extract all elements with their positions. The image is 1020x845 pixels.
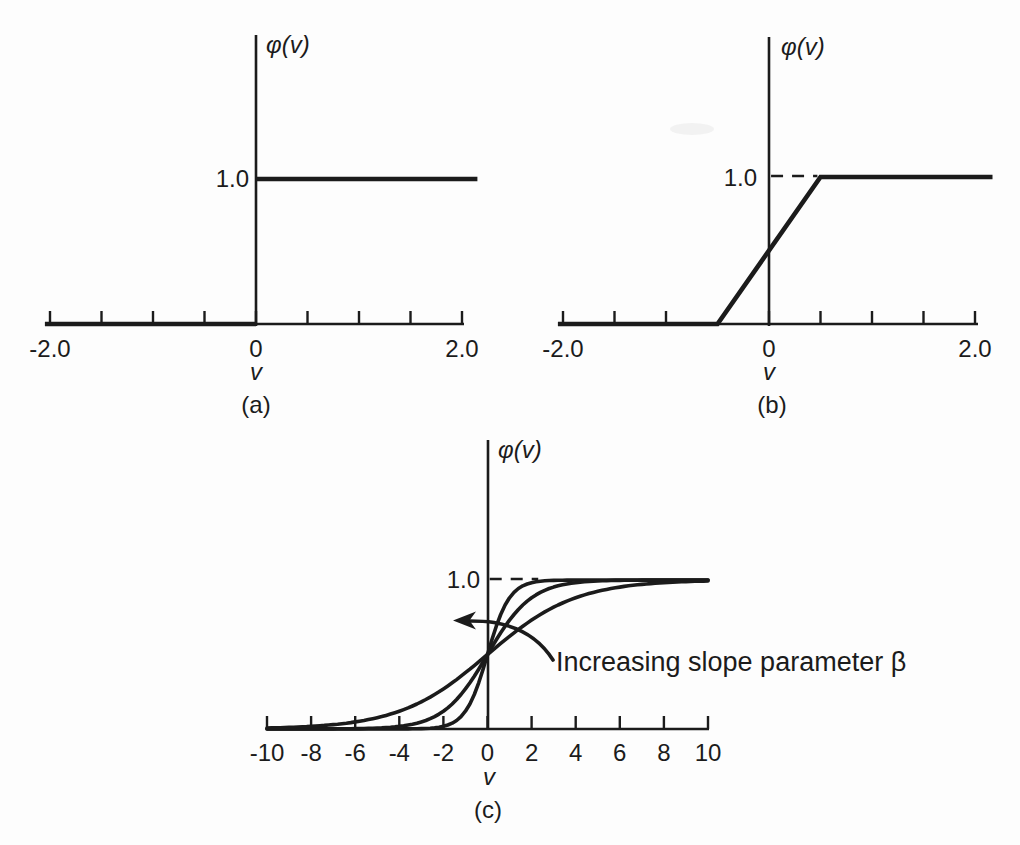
scan-smudge [670,123,714,135]
plot-a-unity-label: 1.0 [216,165,249,192]
plot-piecewise-linear: φ(v) 1.0 v (b) -2.002.0 [542,33,992,418]
plot-a-y-axis-label: φ(v) [266,31,310,58]
function-curve [558,177,993,324]
x-tick-label: 2.0 [958,335,991,362]
x-tick-label: -2.0 [542,335,583,362]
x-tick-label: 10 [695,739,722,766]
x-tick-label: -8 [300,739,321,766]
annotation-arrow-shaft [470,621,553,660]
slope-parameter-annotation: Increasing slope parameter β [556,647,906,677]
figure-canvas: φ(v) 1.0 v (a) -2.002.0 φ(v) 1.0 v (b) -… [0,0,1020,845]
plot-c-unity-label: 1.0 [447,566,480,593]
x-tick-label: 6 [613,739,626,766]
x-tick-label: 0 [249,335,262,362]
x-tick-label: 0 [481,739,494,766]
plot-a-caption: (a) [241,391,270,418]
activation-functions-figure: φ(v) 1.0 v (a) -2.002.0 φ(v) 1.0 v (b) -… [0,0,1020,845]
x-tick-label: -2 [433,739,454,766]
x-tick-label: 2.0 [445,335,478,362]
plot-c-caption: (c) [474,796,502,823]
plot-c-y-axis-label: φ(v) [498,436,542,463]
plot-threshold: φ(v) 1.0 v (a) -2.002.0 [29,31,478,418]
x-tick-label: 8 [657,739,670,766]
plot-b-x-axis-label: v [763,358,777,385]
x-tick-label: 4 [569,739,582,766]
plot-a-x-axis-label: v [250,358,264,385]
x-tick-label: -4 [389,739,410,766]
x-tick-label: 0 [762,335,775,362]
x-tick-label: -10 [250,739,285,766]
plot-b-y-axis-label: φ(v) [781,33,825,60]
x-tick-label: -6 [345,739,366,766]
plot-b-unity-label: 1.0 [724,164,757,191]
x-tick-label: 2 [525,739,538,766]
plot-sigmoid: φ(v) 1.0 v (c) Increasing slope paramete… [250,436,907,823]
plot-c-x-axis-label: v [483,763,497,790]
plot-b-caption: (b) [757,391,786,418]
x-tick-label: -2.0 [29,335,70,362]
